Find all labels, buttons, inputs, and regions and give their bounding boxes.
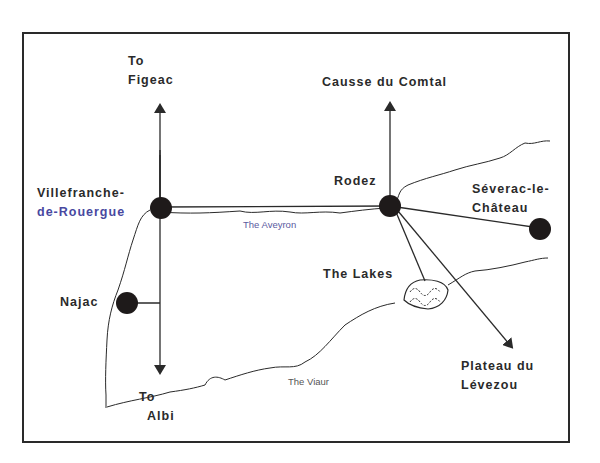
label-najac: Najac xyxy=(60,293,98,312)
label-to-figeac: To Figeac xyxy=(128,52,174,90)
label-line: Lévezou xyxy=(461,376,534,395)
label-to-albi: To Albi xyxy=(139,388,175,426)
label-line: Plateau du xyxy=(461,357,534,376)
label-line: Château xyxy=(472,199,550,218)
town-najac xyxy=(116,292,138,314)
label-line: de-Rouergue xyxy=(37,203,125,222)
label-plateau-du-levezou: Plateau du Lévezou xyxy=(461,357,534,395)
label-the-lakes: The Lakes xyxy=(323,265,393,284)
label-line: Rodez xyxy=(334,172,377,191)
lakes-waves xyxy=(410,289,440,306)
lakes-shape xyxy=(404,280,448,309)
label-severac: Séverac-le- Château xyxy=(472,180,550,218)
label-line: The Lakes xyxy=(323,265,393,284)
town-severac xyxy=(529,218,551,240)
label-line: To xyxy=(128,52,174,71)
label-line: Figeac xyxy=(128,71,174,90)
label-river-viaur: The Viaur xyxy=(288,376,329,387)
town-rodez xyxy=(379,195,401,217)
road-to-levezou xyxy=(398,211,510,345)
label-line: Najac xyxy=(60,293,98,312)
label-rodez: Rodez xyxy=(334,172,377,191)
label-river-aveyron: The Aveyron xyxy=(243,219,296,230)
town-villefranche xyxy=(150,197,172,219)
label-line: Albi xyxy=(147,407,175,426)
label-villefranche: Villefranche- de-Rouergue xyxy=(37,184,125,222)
map: To Figeac Causse du Comtal Villefranche-… xyxy=(0,0,600,463)
label-line: Séverac-le- xyxy=(472,180,550,199)
road-villefranche-rodez xyxy=(160,206,390,207)
label-line: To xyxy=(139,388,175,407)
label-line: Causse du Comtal xyxy=(322,73,447,92)
label-causse-du-comtal: Causse du Comtal xyxy=(322,73,447,92)
road-rodez-lakes xyxy=(396,212,425,281)
label-line: Villefranche- xyxy=(37,184,125,203)
